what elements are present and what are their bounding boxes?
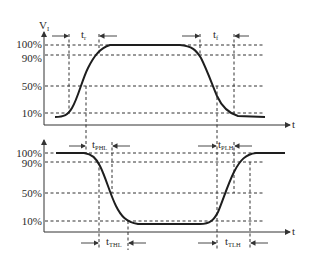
bottom-level-50: 50% bbox=[22, 187, 42, 199]
bottom-graph: t 100% 90% 50% 10% tPHL tPLH tTHL bbox=[16, 86, 295, 250]
tplh-label: tPLH bbox=[218, 138, 234, 151]
bottom-level-10: 10% bbox=[22, 215, 42, 227]
top-level-90: 90% bbox=[22, 52, 42, 64]
bottom-level-90: 90% bbox=[22, 157, 42, 169]
top-y-axis-label: VI bbox=[39, 19, 49, 32]
top-x-axis-label: t bbox=[292, 118, 295, 130]
bottom-waveform bbox=[56, 153, 285, 224]
tphl-label: tPHL bbox=[92, 138, 107, 151]
bottom-x-axis-label: t bbox=[292, 225, 295, 237]
top-graph: VI t 100% 90% 50% 10% tr tf bbox=[16, 19, 295, 130]
timing-diagram: VI t 100% 90% 50% 10% tr tf t 10 bbox=[0, 0, 313, 263]
top-level-50: 50% bbox=[22, 80, 42, 92]
top-level-10: 10% bbox=[22, 107, 42, 119]
tf-label: tf bbox=[213, 28, 219, 41]
ttlh-label: tTLH bbox=[225, 235, 241, 248]
tthl-label: tTHL bbox=[106, 235, 122, 248]
tr-label: tr bbox=[81, 28, 87, 41]
top-level-100: 100% bbox=[16, 38, 42, 50]
